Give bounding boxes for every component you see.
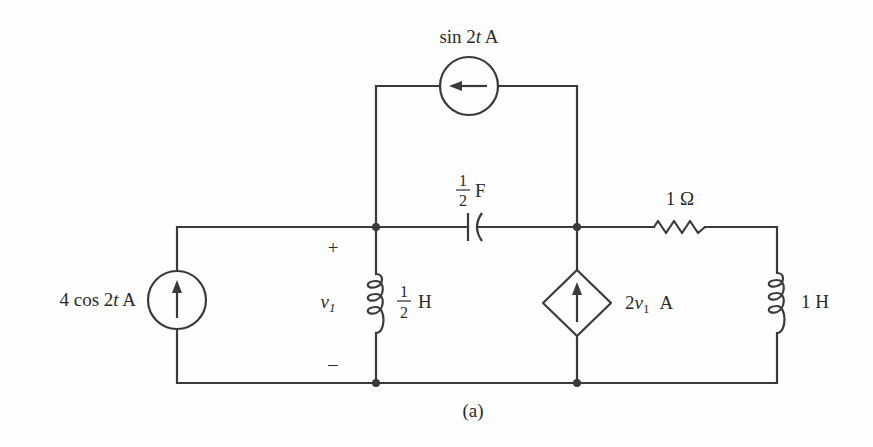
v1-label: v1: [321, 291, 336, 315]
wire-bottom-rail: [177, 329, 777, 383]
circuit-diagram: sin 2t A 4 cos 2t A 1 2 F 1 Ω 1 2 H + v1…: [0, 0, 873, 447]
left-current-source: 4 cos 2t A: [59, 271, 206, 329]
resistor-zigzag-icon: [654, 221, 705, 233]
v1-plus-sign: +: [328, 237, 339, 258]
left-source-label: 4 cos 2t A: [59, 289, 136, 310]
resistor: 1 Ω: [654, 188, 705, 233]
figure-caption: (a): [462, 400, 483, 422]
mid-inductor-unit: H: [418, 291, 432, 312]
capacitor-unit: F: [475, 180, 486, 201]
dependent-source-label: 2v1A: [625, 292, 673, 316]
wires: [177, 86, 777, 383]
dependent-current-source: 2v1A: [543, 270, 673, 336]
mid-inductor-numerator: 1: [400, 283, 408, 300]
wire-top-loop-right: [498, 86, 577, 227]
node-dot: [573, 223, 581, 231]
capacitor-value-denominator: 2: [459, 192, 467, 209]
capacitor: 1 2 F: [456, 172, 486, 241]
node-dot: [372, 379, 380, 387]
mid-inductor: 1 2 H: [368, 274, 432, 333]
capacitor-value-numerator: 1: [459, 172, 467, 189]
node-dot: [573, 379, 581, 387]
arrowhead-up-icon: [172, 280, 182, 293]
arrowhead-up-icon: [572, 282, 582, 295]
arrowhead-left-icon: [449, 81, 462, 91]
top-source-label: sin 2t A: [439, 26, 498, 47]
node-dot: [372, 223, 380, 231]
circuit-figure: sin 2t A 4 cos 2t A 1 2 F 1 Ω 1 2 H + v1…: [0, 0, 873, 447]
top-current-source: sin 2t A: [439, 26, 498, 115]
wire-top-rail-right: [705, 227, 777, 273]
inductor-coil-icon: [769, 273, 785, 333]
wire-top-rail-left: [177, 227, 466, 271]
resistor-label: 1 Ω: [666, 188, 694, 209]
right-inductor-label: 1 H: [801, 291, 829, 312]
v1-minus-sign: –: [327, 353, 338, 374]
right-inductor: 1 H: [769, 273, 830, 333]
wire-top-loop-left: [376, 86, 440, 227]
voltage-v1-annotation: + v1 –: [321, 237, 339, 374]
inductor-coil-icon: [368, 274, 384, 333]
mid-inductor-denominator: 2: [400, 304, 408, 321]
